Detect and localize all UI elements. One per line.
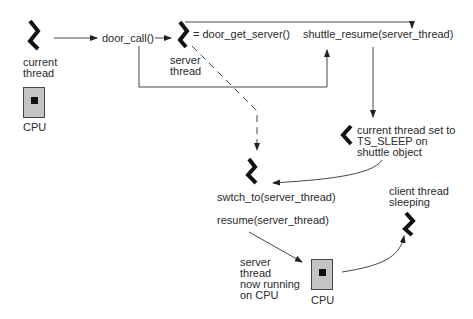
resume-label: resume(server_thread) [217,215,329,226]
thread-icon-client [405,213,413,235]
door-call-label: door_call() [102,33,154,44]
diagram-canvas [0,0,473,319]
thread-icon-current [30,21,38,49]
server-running-4: on CPU [240,290,279,301]
server-thread-label-2: thread [170,66,201,77]
server-assignment-label: = door_get_server() [193,29,290,40]
cpu-core-icon [319,269,326,276]
switch-label: swtch_to(server_thread) [217,192,336,203]
thread-icon-switch [248,159,256,183]
client-thread-label-2: sleeping [389,197,430,208]
sleep-label-3: shuttle object [357,147,422,158]
shuttle-resume-label: shuttle_resume(server_thread) [303,29,453,40]
cpu-core-icon [31,97,38,104]
thread-icon-sleep [343,126,351,144]
thread-icon-server [180,22,187,47]
arrow-doorcall-loop [139,46,327,87]
dashed-server-to-switch [192,46,257,150]
current-thread-label-2: thread [23,68,54,79]
cpu-left-label: CPU [23,122,46,133]
cpu-bottom [311,259,333,290]
cpu-left [23,87,45,118]
cpu-bottom-label: CPU [311,295,334,306]
arrow-cpu-to-client [342,236,404,272]
arrow-sleep-to-switch [273,160,382,183]
